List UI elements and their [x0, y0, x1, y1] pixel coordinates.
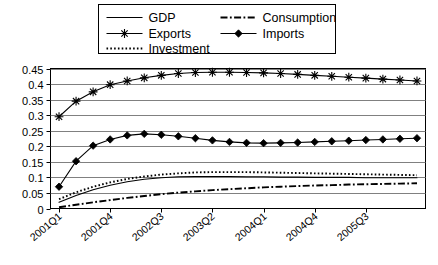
marker-asterisk — [327, 72, 336, 81]
marker-asterisk — [208, 68, 217, 77]
marker-asterisk — [191, 68, 200, 77]
y-tick-label: 0.4 — [28, 79, 43, 91]
marker-asterisk — [242, 68, 251, 77]
y-tick-label: 0.45 — [22, 64, 43, 76]
marker-asterisk — [310, 71, 319, 80]
marker-asterisk — [174, 69, 183, 78]
y-tick-label: 0.35 — [22, 95, 43, 107]
marker-asterisk — [378, 75, 387, 84]
marker-asterisk — [89, 87, 98, 96]
marker-asterisk — [413, 77, 422, 86]
marker-asterisk — [344, 73, 353, 82]
y-tick-label: 0.2 — [28, 141, 43, 153]
marker-asterisk — [120, 29, 129, 38]
y-tick-label: 0.15 — [22, 157, 43, 169]
chart-legend: GDPConsumptionExportsImportsInvestment — [99, 5, 337, 57]
legend-label: Investment — [149, 42, 211, 56]
marker-asterisk — [123, 77, 132, 86]
marker-asterisk — [72, 97, 81, 106]
y-tick-label: 0 — [37, 204, 43, 216]
marker-asterisk — [106, 80, 115, 89]
legend-label: GDP — [149, 11, 176, 25]
y-tick-label: 0.05 — [22, 188, 43, 200]
y-tick-label: 0.1 — [28, 172, 43, 184]
legend-label: Exports — [149, 27, 191, 41]
legend-label: Consumption — [263, 11, 337, 25]
marker-asterisk — [225, 68, 234, 77]
marker-asterisk — [157, 71, 166, 80]
y-tick-label: 0.25 — [22, 126, 43, 138]
legend-label: Imports — [263, 27, 305, 41]
marker-asterisk — [276, 69, 285, 78]
marker-asterisk — [259, 68, 268, 77]
marker-asterisk — [55, 112, 64, 121]
marker-asterisk — [396, 76, 405, 85]
marker-asterisk — [140, 73, 149, 82]
y-tick-label: 0.3 — [28, 110, 43, 122]
chart-container: GDPConsumptionExportsImportsInvestment 0… — [0, 0, 438, 265]
plot-frame — [51, 69, 426, 209]
marker-asterisk — [293, 70, 302, 79]
marker-asterisk — [361, 74, 370, 83]
line-chart-svg: GDPConsumptionExportsImportsInvestment 0… — [0, 0, 438, 265]
